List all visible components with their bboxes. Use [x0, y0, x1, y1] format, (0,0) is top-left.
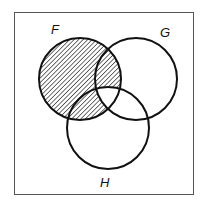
set-g-label: G: [160, 25, 170, 40]
venn-diagram: F G H: [0, 0, 211, 204]
set-h-label: H: [100, 175, 110, 190]
set-f-label: F: [51, 22, 60, 37]
shaded-region: [30, 30, 140, 130]
